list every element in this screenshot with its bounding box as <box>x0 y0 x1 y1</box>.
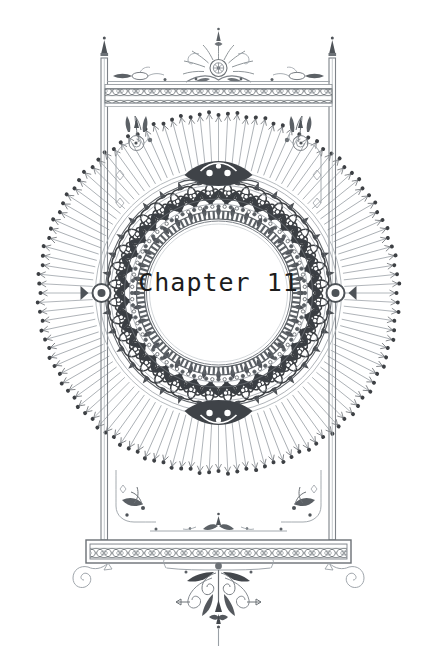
chapter-title: Chapter 11 <box>0 268 437 298</box>
guilloche-band-bottom <box>86 540 351 563</box>
guilloche-band-top <box>105 85 332 107</box>
chapter-heading-page: Chapter 11 <box>0 0 437 651</box>
ornamental-artwork <box>0 0 437 651</box>
